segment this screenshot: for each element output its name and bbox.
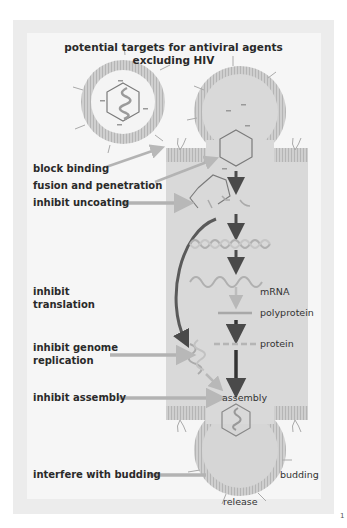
stage-polyprotein: polyprotein	[260, 307, 314, 319]
stage-budding: budding	[280, 469, 319, 481]
diagram-subtitle: excluding HIV	[0, 54, 347, 67]
stage-assembly: assembly	[222, 392, 267, 404]
label-interfere-budding: interfere with budding	[33, 469, 161, 481]
label-inhibit-genome-2: replication	[33, 355, 94, 367]
label-block-binding: block binding	[33, 163, 109, 175]
host-cell	[166, 56, 308, 504]
page-mark: 1	[340, 512, 344, 520]
diagram-title: potential targets for antiviral agents	[0, 41, 347, 54]
label-inhibit-uncoating: inhibit uncoating	[33, 197, 129, 209]
stage-protein: protein	[260, 338, 294, 350]
label-fusion-penetration: fusion and penetration	[33, 180, 162, 192]
stage-release: release	[223, 496, 258, 508]
label-inhibit-translation-1: inhibit	[33, 286, 69, 298]
label-inhibit-translation-2: translation	[33, 299, 95, 311]
viral-lifecycle-diagram	[0, 0, 347, 528]
label-inhibit-genome-1: inhibit genome	[33, 342, 118, 354]
stage-mrna: mRNA	[260, 286, 289, 298]
label-inhibit-assembly: inhibit assembly	[33, 392, 126, 404]
